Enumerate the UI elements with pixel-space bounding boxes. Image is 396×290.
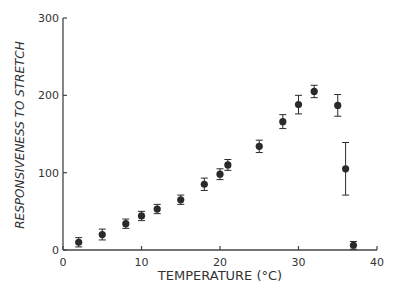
point-marker: [154, 205, 161, 212]
point-marker: [201, 181, 208, 188]
point-marker: [224, 161, 231, 168]
point-marker: [350, 242, 357, 249]
data-point: [99, 229, 106, 240]
point-marker: [295, 101, 302, 108]
y-tick-label: 300: [38, 12, 59, 25]
point-marker: [216, 171, 223, 178]
data-point: [334, 95, 341, 117]
x-axis-label: TEMPERATURE (°C): [157, 268, 282, 283]
point-marker: [99, 231, 106, 238]
point-marker: [138, 212, 145, 219]
point-marker: [342, 165, 349, 172]
data-point: [122, 219, 129, 228]
point-marker: [256, 143, 263, 150]
x-tick-label: 40: [370, 256, 384, 269]
y-tick-label: 100: [38, 167, 59, 180]
point-marker: [75, 239, 82, 246]
data-points: [75, 85, 357, 249]
data-point: [350, 241, 357, 249]
data-point: [311, 85, 318, 97]
point-marker: [177, 196, 184, 203]
data-point: [201, 178, 208, 190]
x-tick-label: 30: [292, 256, 306, 269]
x-tick-label: 0: [60, 256, 67, 269]
y-tick-label: 0: [52, 244, 59, 257]
y-axis-label: RESPONSIVENESS TO STRETCH: [13, 41, 27, 229]
data-point: [216, 169, 223, 180]
point-marker: [122, 220, 129, 227]
x-tick-label: 10: [135, 256, 149, 269]
y-tick-label: 200: [38, 89, 59, 102]
data-point: [295, 95, 302, 114]
axes: 0102030400100200300: [38, 12, 384, 269]
data-point: [138, 211, 145, 220]
data-point: [154, 204, 161, 213]
data-point: [342, 143, 349, 196]
data-point: [177, 195, 184, 204]
point-marker: [279, 118, 286, 125]
point-marker: [311, 88, 318, 95]
data-point: [224, 160, 231, 171]
data-point: [75, 238, 82, 247]
data-point: [279, 115, 286, 129]
scatter-chart: 0102030400100200300 TEMPERATURE (°C) RES…: [0, 0, 396, 290]
point-marker: [334, 102, 341, 109]
data-point: [256, 140, 263, 152]
